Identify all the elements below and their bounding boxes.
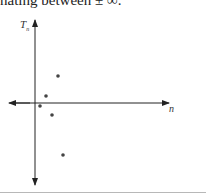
data-point: [56, 74, 60, 78]
data-point: [44, 94, 48, 98]
bottom-divider: [0, 192, 206, 193]
data-point: [50, 113, 54, 117]
data-points: [38, 74, 65, 157]
data-point: [61, 153, 65, 157]
x-axis-label: n: [169, 103, 174, 114]
scatter-plot: Tn n: [0, 0, 206, 196]
y-axis-label: Tn: [20, 18, 29, 32]
data-point: [38, 104, 42, 108]
